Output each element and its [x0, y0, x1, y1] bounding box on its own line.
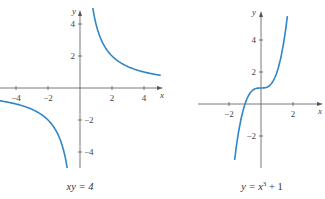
- chart-x-cubed-plus-1: −2 2 x 4 2 −2 y: [198, 7, 323, 168]
- x-axis-label: x: [317, 106, 322, 116]
- hyperbola-branch-negative: [0, 101, 67, 168]
- x-tick-label: 2: [110, 93, 115, 103]
- hyperbola-branch-positive: [93, 8, 161, 75]
- x-tick-label: −2: [224, 109, 234, 119]
- chart-xy-equals-4: −4 −2 2 4 x 4 2 −2 −4 y: [0, 6, 164, 168]
- caption-left: xy = 4: [66, 181, 95, 192]
- caption-right: y = x3 + 1: [240, 180, 283, 192]
- y-axis-label: y: [71, 6, 76, 16]
- y-axis-arrow-icon: [78, 10, 82, 16]
- x-tick-label: 4: [142, 93, 147, 103]
- charts-canvas: −4 −2 2 4 x 4 2 −2 −4 y −2 2 x 4 2 −2 y …: [0, 0, 325, 199]
- y-tick-label: −2: [246, 131, 256, 141]
- y-axis-label: y: [251, 7, 256, 17]
- y-axis-arrow-icon: [259, 11, 263, 17]
- y-tick-label: 4: [252, 35, 257, 45]
- x-tick-label: −2: [43, 93, 53, 103]
- x-tick-label: 2: [291, 109, 296, 119]
- x-axis-label: x: [159, 90, 164, 100]
- y-tick-label: 2: [71, 51, 76, 61]
- y-tick-label: 4: [71, 19, 76, 29]
- y-tick-label: −4: [84, 147, 94, 157]
- y-tick-label: −2: [84, 115, 94, 125]
- x-tick-label: −4: [11, 93, 21, 103]
- y-tick-label: 2: [252, 67, 257, 77]
